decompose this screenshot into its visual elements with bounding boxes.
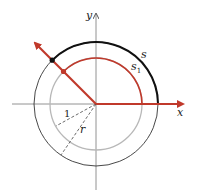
inner-intersection-point	[61, 69, 66, 74]
x-axis-label: x	[177, 106, 184, 119]
unit-radius-line	[56, 104, 96, 126]
terminal-ray	[35, 43, 96, 104]
unit-radius-label: 1	[64, 108, 70, 119]
outer-intersection-point	[50, 58, 55, 63]
inner-arc-subscript: 1	[137, 67, 141, 75]
arc-length-diagram: y x s s1 1 r	[0, 0, 197, 194]
inner-arc-label: s1	[131, 60, 141, 75]
y-axis-label: y	[85, 9, 93, 22]
outer-arc-label: s	[141, 48, 147, 61]
outer-radius-label: r	[80, 123, 86, 136]
